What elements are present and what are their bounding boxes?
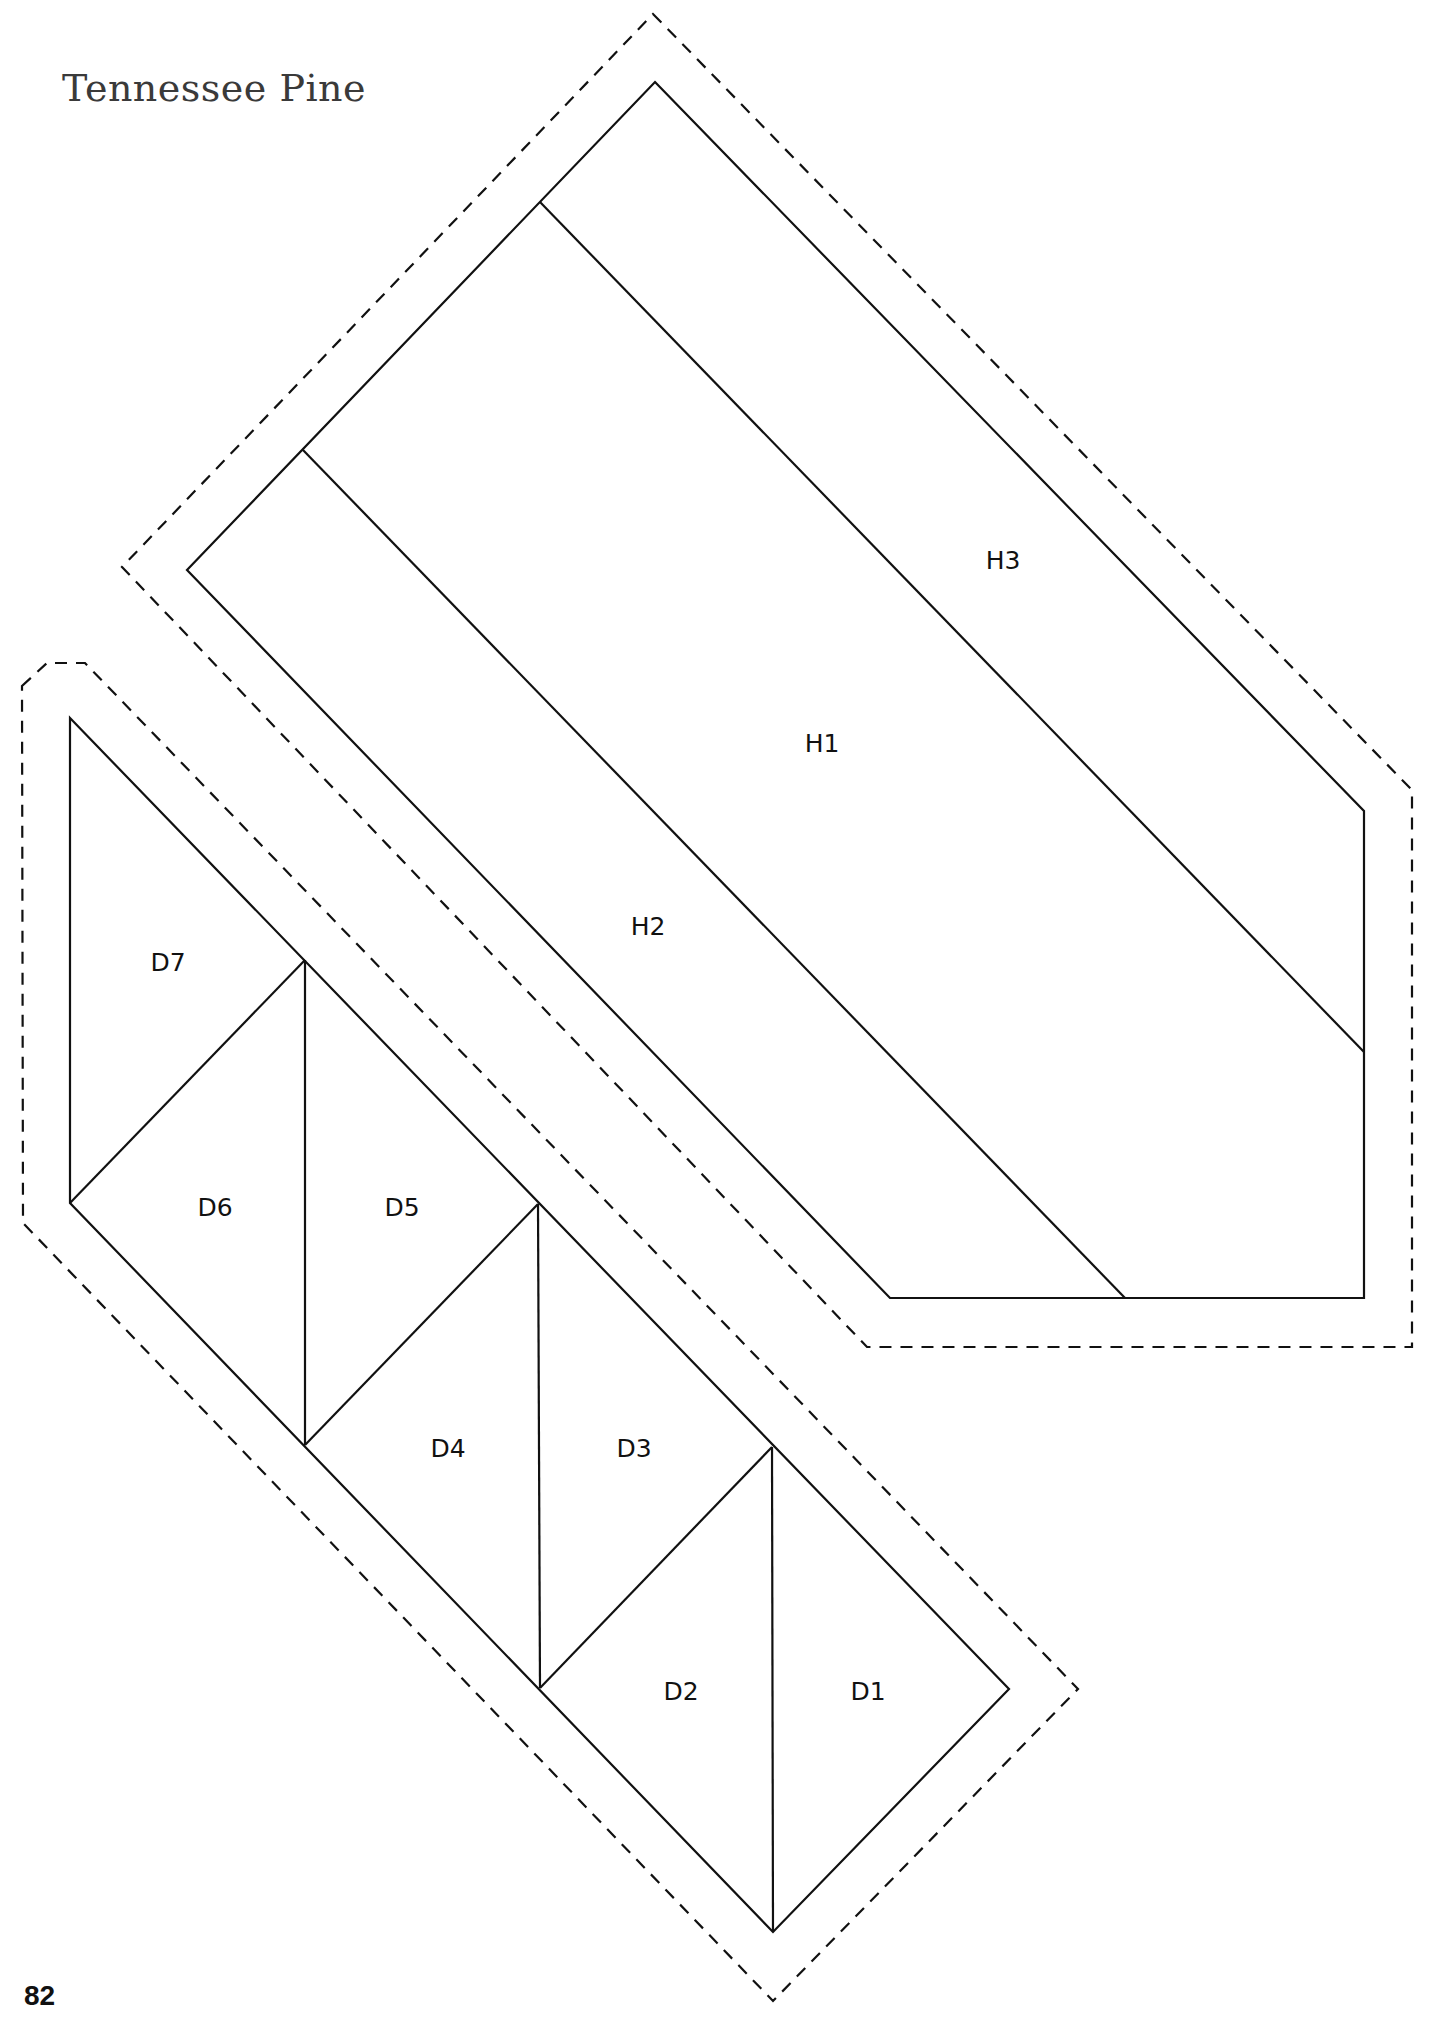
pattern-page: Tennessee Pine H3 H1 H2 <box>0 0 1440 2019</box>
piece-label-h2: H2 <box>631 912 666 941</box>
page-number: 82 <box>24 1980 55 2012</box>
piece-label-d4: D4 <box>430 1434 465 1463</box>
piece-label-d1: D1 <box>850 1677 885 1706</box>
seam-d-diagonal-3 <box>540 1447 772 1688</box>
seam-d-vertical-3 <box>772 1447 773 1932</box>
section-h-outline <box>187 82 1364 1298</box>
piece-label-d6: D6 <box>197 1193 232 1222</box>
seam-d-diagonal-1 <box>70 960 305 1203</box>
section-h-seam-allowance <box>122 14 1412 1347</box>
piece-label-d3: D3 <box>616 1434 651 1463</box>
piece-label-d7: D7 <box>150 948 185 977</box>
seam-d-diagonal-2 <box>305 1204 538 1445</box>
seam-d-vertical-2 <box>538 1204 540 1688</box>
piece-label-d5: D5 <box>384 1193 419 1222</box>
foundation-pattern-diagram: H3 H1 H2 D7 D6 D5 D4 D3 D2 D1 <box>0 0 1440 2019</box>
piece-label-h3: H3 <box>986 546 1021 575</box>
seam-h2-h1 <box>303 450 1125 1298</box>
piece-label-d2: D2 <box>663 1677 698 1706</box>
section-d: D7 D6 D5 D4 D3 D2 D1 <box>22 663 1078 2001</box>
piece-label-h1: H1 <box>805 729 840 758</box>
section-d-seam-allowance <box>22 663 1078 2001</box>
section-h: H3 H1 H2 <box>122 14 1412 1347</box>
